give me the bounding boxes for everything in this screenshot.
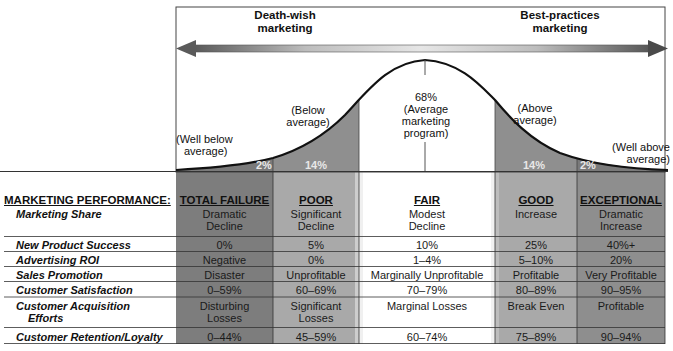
cell-ms-good: Increase — [495, 208, 577, 220]
cell-cs-exceptional: 90–95% — [577, 284, 665, 296]
column-header-poor: POOR — [273, 194, 359, 206]
cell-crl-poor: 45–59% — [273, 331, 359, 343]
well-above-average-label: (Well above average) — [598, 141, 670, 165]
cell-roi-fair: 1–4% — [359, 254, 495, 266]
cell-nps-good: 25% — [495, 239, 577, 251]
cell-text: Increase — [495, 208, 577, 220]
bell-curve-diagram — [0, 0, 673, 351]
percent-below: 14% — [305, 159, 327, 171]
average-line-1: (Average — [390, 103, 462, 115]
above-line-2: average) — [500, 114, 570, 126]
average-label: 68% (Average marketing program) — [390, 91, 462, 139]
row-label-marketing-share: Marketing Share — [16, 208, 102, 220]
marketing-performance-title: MARKETING PERFORMANCE: — [4, 194, 171, 206]
cell-cs-total-failure: 0–59% — [176, 284, 273, 296]
below-average-label: (Below average) — [278, 104, 338, 128]
well-below-average-label: (Well below average) — [176, 133, 256, 157]
cell-ms-exceptional: DramaticIncrease — [577, 208, 665, 232]
cell-nps-poor: 5% — [273, 239, 359, 251]
row-label-customer-retention-loyalty: Customer Retention/Loyalty — [16, 331, 163, 343]
cell-text: Increase — [577, 220, 665, 232]
cell-roi-total-failure: Negative — [176, 254, 273, 266]
cell-cs-fair: 70–79% — [359, 284, 495, 296]
column-header-good: GOOD — [495, 194, 577, 206]
cell-cae-poor: SignificantLosses — [273, 300, 359, 324]
cell-text: Disturbing — [176, 300, 273, 312]
cell-text: Significant — [273, 300, 359, 312]
column-header-exceptional: EXCEPTIONAL — [577, 194, 665, 206]
cell-text: Decline — [176, 220, 273, 232]
percent-above: 14% — [523, 159, 545, 171]
row-label-line-2: Efforts — [16, 312, 130, 324]
row-label-customer-acquisition-efforts: Customer Acquisition Efforts — [16, 300, 130, 324]
row-label-advertising-roi: Advertising ROI — [16, 254, 99, 266]
cell-cs-good: 80–89% — [495, 284, 577, 296]
cell-text: Dramatic — [176, 208, 273, 220]
cell-nps-fair: 10% — [359, 239, 495, 251]
cell-nps-total-failure: 0% — [176, 239, 273, 251]
cell-ms-fair: ModestDecline — [359, 208, 495, 232]
cell-text: Decline — [359, 220, 495, 232]
percent-well-below: 2% — [256, 159, 272, 171]
cell-sp-total-failure: Disaster — [176, 269, 273, 281]
cell-crl-fair: 60–74% — [359, 331, 495, 343]
cell-text: Decline — [273, 220, 359, 232]
cell-ms-total-failure: DramaticDecline — [176, 208, 273, 232]
cell-text: Significant — [273, 208, 359, 220]
cell-cs-poor: 60–69% — [273, 284, 359, 296]
double-arrow — [176, 40, 668, 57]
well-above-line-2: average) — [598, 153, 670, 165]
cell-crl-exceptional: 90–94% — [577, 331, 665, 343]
death-wish-marketing-label: Death-wish marketing — [230, 9, 340, 35]
cell-text: Dramatic — [577, 208, 665, 220]
below-line-1: (Below — [278, 104, 338, 116]
cell-sp-poor: Unprofitable — [273, 269, 359, 281]
cell-cae-fair: Marginal Losses — [359, 300, 495, 312]
cell-crl-total-failure: 0–44% — [176, 331, 273, 343]
average-line-2: marketing — [390, 115, 462, 127]
cell-nps-exceptional: 40%+ — [577, 239, 665, 251]
cell-sp-fair: Marginally Unprofitable — [359, 269, 495, 281]
death-wish-text: Death-wish — [230, 9, 340, 22]
row-label-customer-satisfaction: Customer Satisfaction — [16, 284, 133, 296]
average-percent: 68% — [390, 91, 462, 103]
row-label-line-1: Customer Acquisition — [16, 300, 130, 312]
column-header-fair: FAIR — [359, 194, 495, 206]
best-practices-text-2: marketing — [500, 22, 620, 35]
cell-sp-good: Profitable — [495, 269, 577, 281]
cell-roi-poor: 0% — [273, 254, 359, 266]
cell-ms-poor: SignificantDecline — [273, 208, 359, 232]
row-label-new-product-success: New Product Success — [16, 239, 131, 251]
best-practices-text: Best-practices — [500, 9, 620, 22]
cell-text: Losses — [273, 312, 359, 324]
cell-cae-exceptional: Profitable — [577, 300, 665, 312]
above-line-1: (Above — [500, 102, 570, 114]
average-line-3: program) — [390, 127, 462, 139]
cell-cae-total-failure: DisturbingLosses — [176, 300, 273, 324]
cell-text: Modest — [359, 208, 495, 220]
well-above-line-1: (Well above — [598, 141, 670, 153]
row-label-sales-promotion: Sales Promotion — [16, 269, 103, 281]
well-below-line-1: (Well below — [176, 133, 256, 145]
cell-sp-exceptional: Very Profitable — [577, 269, 665, 281]
cell-roi-exceptional: 20% — [577, 254, 665, 266]
well-below-line-2: average) — [176, 145, 256, 157]
death-wish-text-2: marketing — [230, 22, 340, 35]
cell-text: Losses — [176, 312, 273, 324]
cell-crl-good: 75–89% — [495, 331, 577, 343]
best-practices-marketing-label: Best-practices marketing — [500, 9, 620, 35]
above-average-label: (Above average) — [500, 102, 570, 126]
below-line-2: average) — [278, 116, 338, 128]
cell-cae-good: Break Even — [495, 300, 577, 312]
column-header-total-failure: TOTAL FAILURE — [176, 194, 273, 206]
cell-roi-good: 5–10% — [495, 254, 577, 266]
percent-well-above: 2% — [580, 159, 596, 171]
